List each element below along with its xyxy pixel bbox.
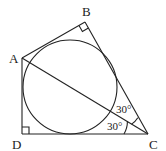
angle-label-upper: 30° (116, 103, 131, 115)
vertex-label-d: D (12, 137, 21, 151)
diagonal-ac (22, 58, 148, 134)
angle-arc-c-lower (124, 122, 127, 134)
vertex-label-b: B (82, 4, 91, 19)
vertex-label-a: A (9, 51, 19, 66)
geometry-diagram: A B C D 30° 30° (0, 0, 166, 151)
angle-label-lower: 30° (107, 120, 122, 132)
right-angle-mark-d (22, 127, 29, 134)
vertex-label-c: C (149, 137, 158, 151)
angle-arc-c-upper (132, 118, 138, 124)
